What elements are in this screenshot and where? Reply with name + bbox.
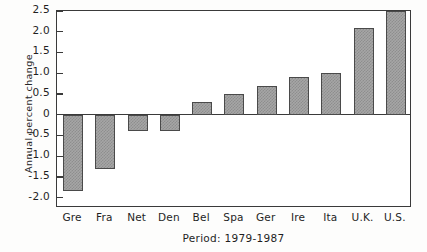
bar <box>321 73 341 114</box>
y-axis-tick-label: 0.5 <box>6 86 50 98</box>
y-axis-tick <box>57 10 63 11</box>
plot-area <box>56 10 411 207</box>
bar <box>289 77 309 114</box>
x-axis-tick-label: Ita <box>314 211 346 223</box>
y-axis-tick-label: 2.0 <box>6 24 50 36</box>
x-axis-tick-label: Spa <box>217 211 249 223</box>
y-axis-tick <box>57 73 63 74</box>
y-axis-tick <box>57 31 63 32</box>
bar <box>95 115 115 169</box>
y-axis-tick-label: 1.0 <box>6 65 50 77</box>
y-axis-tick <box>57 156 63 157</box>
y-axis-tick-label: -1.5 <box>6 169 50 181</box>
x-axis-tick-label: Gre <box>56 211 88 223</box>
x-axis-tick-label: U.K. <box>346 211 378 223</box>
x-axis-tick-label: Fra <box>88 211 120 223</box>
y-axis-tick-label: -2.0 <box>6 190 50 202</box>
bar <box>257 86 277 115</box>
chart-caption: Period: 1979-1987 <box>56 232 411 244</box>
y-axis-tick-label: -1.0 <box>6 148 50 160</box>
y-axis-tick <box>57 93 63 94</box>
x-axis-tick-label: U.S. <box>379 211 411 223</box>
bar <box>386 11 406 115</box>
bar <box>160 115 180 132</box>
x-axis-tick-label: Bel <box>185 211 217 223</box>
chart-figure: Annual percent change 2.52.01.51.00.50-0… <box>0 0 427 252</box>
y-axis-tick <box>57 52 63 53</box>
y-axis-tick-label: -0.5 <box>6 127 50 139</box>
y-axis-tick-label: 2.5 <box>6 3 50 15</box>
x-axis-tick-label: Den <box>153 211 185 223</box>
y-axis-tick <box>57 135 63 136</box>
bar <box>354 28 374 115</box>
y-axis-tick <box>57 114 63 115</box>
bar <box>128 115 148 132</box>
y-axis-tick <box>57 197 63 198</box>
bar <box>224 94 244 115</box>
y-axis-tick <box>57 176 63 177</box>
x-axis-tick-label: Net <box>121 211 153 223</box>
y-axis-tick-label: 0 <box>6 107 50 119</box>
bar <box>192 102 212 114</box>
x-axis-tick-label: Ire <box>282 211 314 223</box>
y-axis-tick-label: 1.5 <box>6 44 50 56</box>
x-axis-tick-label: Ger <box>250 211 282 223</box>
bar <box>63 115 83 192</box>
